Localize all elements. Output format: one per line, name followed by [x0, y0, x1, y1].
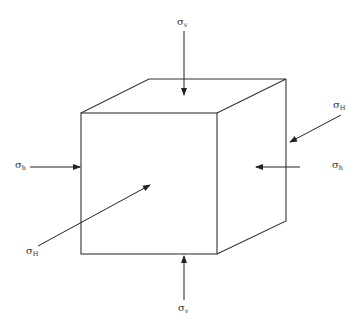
arrow-sigma-H-right — [290, 115, 341, 142]
stress-cube-diagram: σv σH σh σh σH σv — [0, 0, 359, 331]
label-sigma-H-left: σH — [26, 246, 39, 258]
arrow-sigma-H-left — [38, 185, 150, 246]
cube-drawing — [0, 0, 359, 331]
label-sigma-H-right: σH — [333, 100, 346, 112]
label-sigma-v-bottom: σv — [178, 303, 189, 315]
label-sigma-h-right: σh — [332, 160, 343, 172]
label-sigma-v-top: σv — [177, 17, 188, 29]
label-sigma-h-left: σh — [15, 160, 26, 172]
cube-front-face — [81, 113, 217, 254]
